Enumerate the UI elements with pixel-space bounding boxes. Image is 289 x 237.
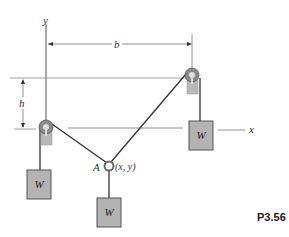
rope-A-to-right-pulley — [111, 74, 186, 162]
x-axis-label: x — [249, 124, 254, 135]
point-A-label: A — [93, 162, 100, 173]
problem-number: P3.56 — [257, 212, 286, 223]
y-axis-label: y — [43, 15, 48, 26]
rope-left-pulley-to-A — [52, 124, 107, 163]
b-arrow-right — [187, 42, 192, 46]
diagram-canvas — [0, 0, 289, 237]
h-arrow-top — [21, 79, 25, 84]
weight-center-label: W — [97, 207, 121, 218]
weight-right-label: W — [189, 130, 213, 141]
h-arrow-bottom — [21, 123, 25, 128]
point-A-coords: (x, y) — [115, 162, 136, 172]
weight-left-label: W — [27, 179, 51, 190]
b-dimension-label: b — [114, 39, 120, 50]
h-dimension-label: h — [19, 98, 25, 109]
b-arrow-left — [48, 42, 53, 46]
ring-A — [105, 162, 114, 171]
